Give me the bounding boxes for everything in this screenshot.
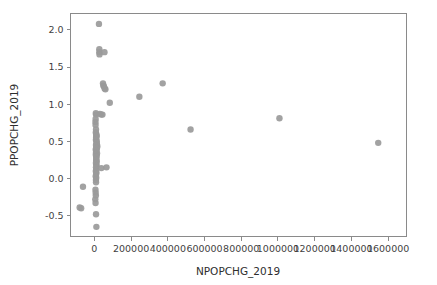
y-tick-label: 1.0 xyxy=(48,99,63,110)
y-tick-label: 1.5 xyxy=(48,61,63,72)
y-axis-ticks: -0.50.00.51.01.52.0 xyxy=(45,24,71,221)
chart-canvas: 0200000400000600000800000100000012000001… xyxy=(0,0,437,285)
data-point xyxy=(101,49,107,55)
data-point xyxy=(78,205,84,211)
data-points xyxy=(76,21,381,230)
x-tick-label: 400000 xyxy=(150,243,186,254)
data-point xyxy=(187,126,193,132)
data-point xyxy=(80,183,86,189)
y-tick-label: 2.0 xyxy=(48,24,63,35)
data-point xyxy=(99,111,105,117)
data-point xyxy=(375,140,381,146)
data-point xyxy=(93,224,99,230)
data-point xyxy=(102,86,108,92)
plot-frame xyxy=(71,14,407,237)
x-tick-label: 1600000 xyxy=(367,243,409,254)
x-axis-title: NPOPCHG_2019 xyxy=(196,265,280,278)
data-point xyxy=(276,115,282,121)
x-tick-label: 200000 xyxy=(113,243,149,254)
data-point xyxy=(107,100,113,106)
data-point xyxy=(136,94,142,100)
x-tick-label: 600000 xyxy=(186,243,222,254)
y-tick-label: -0.5 xyxy=(45,210,64,221)
y-tick-label: 0.5 xyxy=(48,136,63,147)
data-point xyxy=(93,211,99,217)
x-tick-label: 0 xyxy=(91,243,97,254)
data-point xyxy=(159,80,165,86)
x-axis-ticks: 0200000400000600000800000100000012000001… xyxy=(91,237,409,254)
data-point xyxy=(93,179,99,185)
data-point xyxy=(96,21,102,27)
y-tick-label: 0.0 xyxy=(48,173,63,184)
scatter-plot-figure: 0200000400000600000800000100000012000001… xyxy=(0,0,437,285)
data-point xyxy=(103,164,109,170)
data-point xyxy=(92,200,98,206)
x-tick-label: 800000 xyxy=(223,243,259,254)
y-axis-title: PPOPCHG_2019 xyxy=(8,84,21,167)
